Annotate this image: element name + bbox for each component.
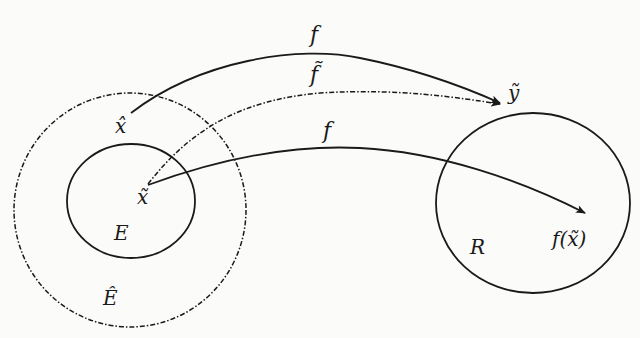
function-mapping-diagram: f f̃ f x̂ x̃ ỹ f(x̃) E Ê R [0,0,640,338]
set-e-hat-boundary [14,93,246,327]
label-f-tilde: f̃ [308,61,324,87]
label-y-tilde: ỹ [507,81,520,105]
label-f-x-tilde: f(x̃) [550,227,586,251]
set-r-boundary [436,113,630,293]
arrow-f-lower [148,147,585,213]
label-f-lower: f [321,118,335,143]
set-e-boundary [67,144,195,258]
label-x-hat: x̂ [115,114,126,138]
label-set-e-hat: Ê [102,286,118,310]
label-x-tilde: x̃ [137,185,149,209]
label-f-upper: f [308,22,322,47]
label-set-r: R [469,235,485,259]
label-set-e: E [113,221,129,245]
